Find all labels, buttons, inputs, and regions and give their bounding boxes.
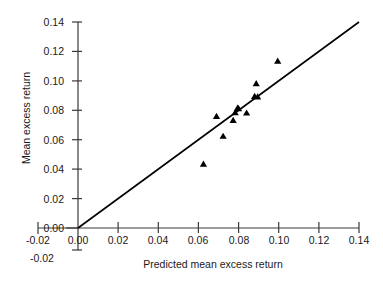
data-point-marker xyxy=(243,109,250,115)
x-tick-label: 0.06 xyxy=(177,234,219,246)
data-point-marker xyxy=(220,133,227,139)
data-point-marker xyxy=(230,117,237,123)
data-point-marker xyxy=(200,160,207,166)
x-tick-label: 0.14 xyxy=(338,234,380,246)
scatter-plot-figure: 0.14 0.12 0.10 0.08 0.06 0.04 0.02 0.00 … xyxy=(0,0,383,282)
plot-area: 0.14 0.12 0.10 0.08 0.06 0.04 0.02 0.00 … xyxy=(0,0,383,282)
x-tick-label: 0.00 xyxy=(57,234,99,246)
y-tick-label: 0.00 xyxy=(26,222,64,234)
data-point-marker xyxy=(253,80,260,86)
x-tick-label: 0.12 xyxy=(298,234,340,246)
data-point-marker xyxy=(274,58,281,64)
x-tick-label: 0.08 xyxy=(218,234,260,246)
y-axis-title: Mean excess return xyxy=(20,48,32,188)
data-point-marker xyxy=(213,113,220,119)
y-tick-label: 0.02 xyxy=(26,193,64,205)
y-tick-label: 0.14 xyxy=(26,16,64,28)
identity-reference-line xyxy=(78,22,359,228)
x-tick-label: 0.04 xyxy=(137,234,179,246)
x-tick-label: 0.10 xyxy=(258,234,300,246)
axis-lines xyxy=(38,22,359,250)
x-axis-title: Predicted mean excess return xyxy=(118,258,308,270)
x-tick-label: -0.02 xyxy=(16,234,60,246)
y-axis-ticks xyxy=(66,22,82,250)
data-point-series xyxy=(200,58,281,167)
y-negative-tick-label: -0.02 xyxy=(30,252,54,264)
x-tick-label: 0.02 xyxy=(97,234,139,246)
